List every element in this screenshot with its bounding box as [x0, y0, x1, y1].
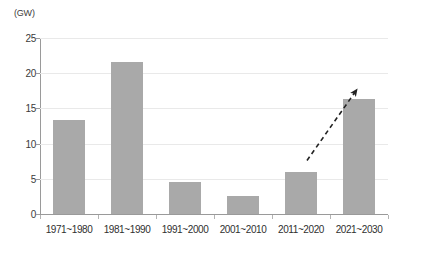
- chart-screenshot: (GW) 0510152025 1971~19801981~19901991~2…: [0, 0, 424, 254]
- y-axis-tick-label: 5: [0, 173, 36, 184]
- bar: [343, 99, 375, 214]
- bar: [111, 62, 143, 214]
- gridline: [40, 179, 388, 180]
- x-axis-tick-label: 2021~2030: [336, 224, 383, 235]
- gridline: [40, 144, 388, 145]
- x-axis-tick-mark: [388, 215, 389, 219]
- x-axis-tick-label: 1991~2000: [162, 224, 209, 235]
- y-axis-unit-label: (GW): [14, 8, 35, 18]
- x-axis-tick-mark: [330, 215, 331, 219]
- y-axis-tick-label: 10: [0, 138, 36, 149]
- bar: [227, 196, 259, 214]
- bar: [285, 172, 317, 214]
- gridline: [40, 38, 388, 39]
- gridline: [40, 108, 388, 109]
- x-axis-tick-label: 1981~1990: [104, 224, 151, 235]
- bar: [169, 182, 201, 214]
- x-axis-tick-mark: [214, 215, 215, 219]
- x-axis-tick-label: 1971~1980: [46, 224, 93, 235]
- y-axis-tick-label: 25: [0, 33, 36, 44]
- x-axis-tick-mark: [272, 215, 273, 219]
- gridline: [40, 73, 388, 74]
- x-axis-tick-mark: [156, 215, 157, 219]
- x-axis-tick-label: 2011~2020: [278, 224, 324, 235]
- y-axis-tick-label: 15: [0, 103, 36, 114]
- x-axis-tick-mark: [98, 215, 99, 219]
- y-axis-tick-label: 0: [0, 209, 36, 220]
- bar: [53, 120, 85, 214]
- y-axis-tick-label: 20: [0, 68, 36, 79]
- x-axis-tick-mark: [40, 215, 41, 219]
- x-axis-tick-label: 2001~2010: [220, 224, 267, 235]
- plot-area: [40, 38, 388, 214]
